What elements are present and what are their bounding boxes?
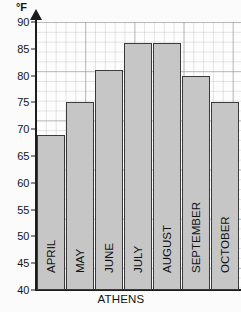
bar-label-october: OCTOBER	[219, 216, 231, 273]
temperature-bar-chart: °F 4045505560657075808590 APRILMAYJUNEJU…	[0, 0, 241, 312]
bar-label-august: AUGUST	[161, 225, 173, 273]
bar-september: SEPTEMBER	[182, 76, 210, 290]
bar-august: AUGUST	[153, 43, 181, 290]
bar-label-july: JULY	[132, 246, 144, 273]
bar-label-june: JUNE	[103, 243, 115, 273]
y-axis-tick-labels: 4045505560657075808590	[0, 0, 36, 312]
chart-caption: ATHENS	[36, 293, 206, 305]
bar-july: JULY	[124, 43, 152, 290]
bar-october: OCTOBER	[211, 102, 239, 290]
bar-label-april: APRIL	[45, 240, 57, 273]
bar-april: APRIL	[37, 135, 65, 290]
bar-label-may: MAY	[74, 249, 86, 273]
plot-area: APRILMAYJUNEJULYAUGUSTSEPTEMBEROCTOBER	[37, 22, 241, 290]
bar-june: JUNE	[95, 70, 123, 290]
bar-may: MAY	[66, 102, 94, 290]
bar-label-september: SEPTEMBER	[190, 202, 202, 273]
